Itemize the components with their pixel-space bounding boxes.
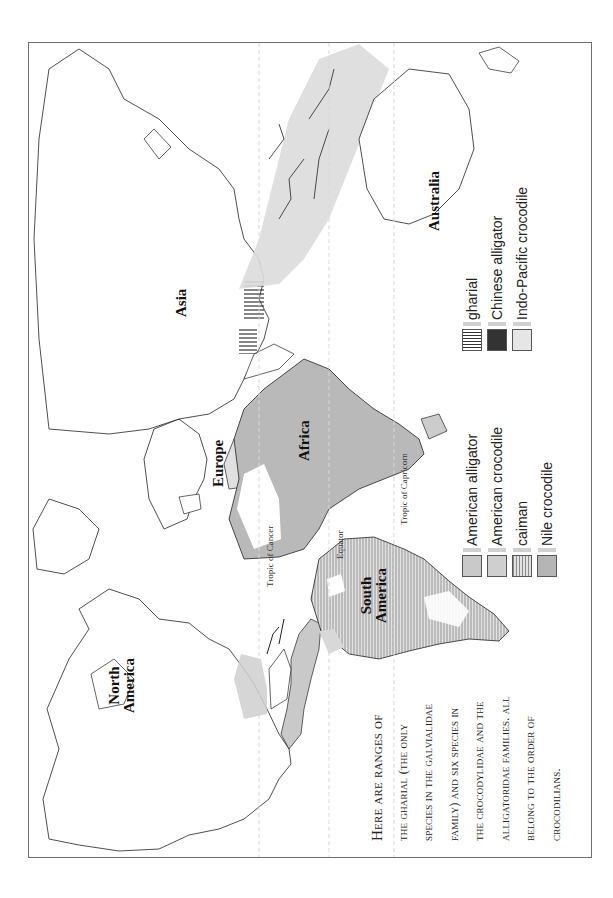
label-north: North <box>107 658 122 713</box>
legend-item-caiman: caiman <box>511 427 533 577</box>
map-frame: North America South America Europe Afric… <box>28 42 592 858</box>
caption: Here are ranges of the gharial (the only… <box>365 581 569 841</box>
label-tropic-of-cancer: Tropic of Cancer <box>265 526 275 587</box>
legend-label: Indo-Pacific crocodile <box>513 187 531 326</box>
map-landscape: North America South America Europe Afric… <box>29 43 592 858</box>
label-europe: Europe <box>211 440 226 487</box>
caption-line: family) and six species in <box>442 581 468 841</box>
swatch-dark-icon <box>487 329 507 351</box>
caption-line: species in the Galvialidae <box>416 581 442 841</box>
legend-label: caiman <box>513 501 531 552</box>
caption-line: belong to the order of <box>518 581 544 841</box>
label-equator: Equator <box>335 531 345 560</box>
caption-line: Here are ranges of <box>365 581 391 841</box>
caption-line: the Crocodylidae and the <box>467 581 493 841</box>
swatch-light-icon <box>512 329 532 351</box>
legend-label: Chinese alligator <box>488 216 506 326</box>
label-australia: Australia <box>427 171 442 231</box>
swatch-solid-icon <box>487 555 507 577</box>
swatch-solid-icon <box>462 555 482 577</box>
legend-label: American crocodile <box>488 427 506 552</box>
label-america: America <box>122 658 137 713</box>
label-tropic-of-capricorn: Tropic of Capricorn <box>399 453 409 525</box>
africa <box>229 359 447 559</box>
legend-new-world: American alligator American crocodile ca… <box>461 427 561 577</box>
swatch-striped-icon <box>512 555 532 577</box>
legend-label: American alligator <box>463 434 481 552</box>
swatch-vertical-stripes-icon <box>462 329 482 351</box>
legend-item-chinese-alligator: Chinese alligator <box>486 187 508 351</box>
legend-item-indo-pacific-crocodile: Indo-Pacific crocodile <box>511 187 533 351</box>
legend-label: Nile crocodile <box>538 462 556 552</box>
swatch-solid-icon <box>537 555 557 577</box>
caption-line: Alligatoridae families. All <box>493 581 519 841</box>
legend-label: gharial <box>463 278 481 326</box>
legend-item-american-crocodile: American crocodile <box>486 427 508 577</box>
legend-item-nile-crocodile: Nile crocodile <box>536 427 558 577</box>
legend-item-gharial: gharial <box>461 187 483 351</box>
asia <box>34 49 294 434</box>
label-north-america: North America <box>107 658 137 713</box>
legend-item-american-alligator: American alligator <box>461 427 483 577</box>
legend-old-world: gharial Chinese alligator Indo-Pacific c… <box>461 187 536 351</box>
label-asia: Asia <box>174 289 189 317</box>
caption-line: crocodilians. <box>544 581 570 841</box>
caption-line: the gharial (the only <box>391 581 417 841</box>
label-africa: Africa <box>297 420 312 461</box>
